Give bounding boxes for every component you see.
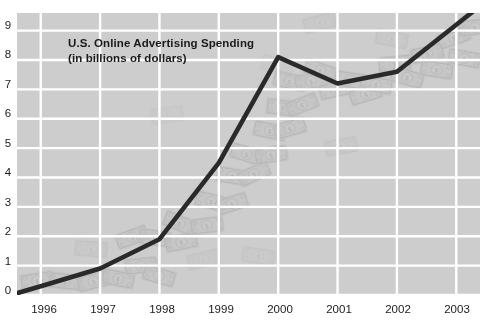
x-tick-2001: 2001: [316, 303, 362, 315]
x-tick-1996: 1996: [21, 303, 67, 315]
y-tick-7: 7: [1, 78, 15, 90]
x-tick-1998: 1998: [139, 303, 185, 315]
y-tick-1: 1: [1, 255, 15, 267]
y-tick-8: 8: [1, 48, 15, 60]
x-tick-1999: 1999: [198, 303, 244, 315]
chart-title-subtitle: (in billions of dollars): [68, 51, 318, 66]
y-tick-3: 3: [1, 196, 15, 208]
x-tick-1997: 1997: [80, 303, 126, 315]
y-tick-5: 5: [1, 137, 15, 149]
y-tick-2: 2: [1, 225, 15, 237]
chart-title-main: U.S. Online Advertising Spending: [68, 37, 254, 49]
x-tick-2002: 2002: [375, 303, 421, 315]
x-tick-2003: 2003: [434, 303, 480, 315]
x-tick-2000: 2000: [257, 303, 303, 315]
chart-title: U.S. Online Advertising Spending (in bil…: [68, 36, 318, 66]
y-tick-4: 4: [1, 166, 15, 178]
y-tick-9: 9: [1, 19, 15, 31]
y-tick-6: 6: [1, 107, 15, 119]
y-tick-0: 0: [1, 284, 15, 296]
chart-figure: $: [0, 0, 493, 330]
